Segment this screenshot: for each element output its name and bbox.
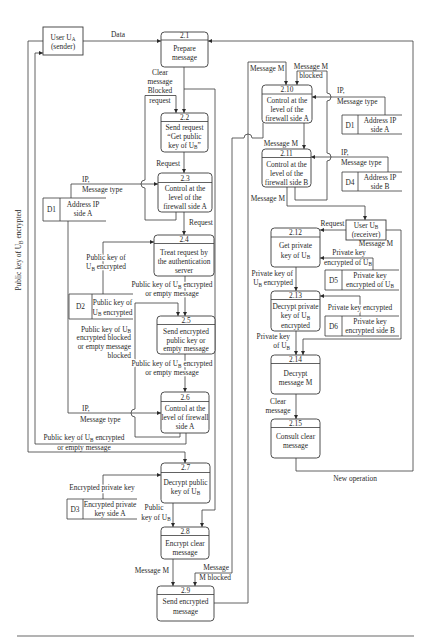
- process-2-11: 2.11 Control at the level of the firewal…: [262, 149, 311, 188]
- data-store-d2: D2 Public key of UB encrypted: [69, 294, 133, 319]
- store-id: D3: [70, 505, 79, 514]
- flow-label-private-key-encrypted: Private key encrypted: [328, 303, 393, 312]
- store-label-line: Address IP: [364, 116, 397, 125]
- process-label-line: key of UB: [281, 251, 311, 261]
- process-label-line: message: [172, 53, 198, 62]
- process-2-15: 2.15 Consult clear message: [271, 419, 320, 459]
- flow-label-clear-message: Clear: [270, 397, 287, 406]
- flow-label-blocked-request: request: [149, 96, 171, 105]
- store-label-line: encrypted of UB: [346, 280, 394, 290]
- flow-label-public-key: Public key of: [86, 253, 126, 262]
- flow-label-clear-message: Clear: [152, 68, 169, 77]
- process-label-line: message: [172, 548, 198, 557]
- store-label-line: Private key: [353, 271, 387, 280]
- process-label-line: Consult clear: [276, 432, 316, 441]
- flow-label-message-m-blocked: blocked: [299, 71, 323, 80]
- process-label-line: level of the: [168, 193, 202, 202]
- process-number: 2.1: [180, 31, 190, 40]
- process-2-3: 2.3 Control at the level of the firewall…: [158, 173, 212, 212]
- process-label-line: Encrypt clear: [165, 539, 205, 548]
- flow-label-ip: IP,: [82, 404, 90, 413]
- process-number: 2.6: [180, 393, 190, 402]
- entity-role: (receiver): [352, 230, 381, 239]
- data-store-d4: D4 Address IP side B: [342, 172, 402, 191]
- store-label-line: side A: [371, 125, 390, 134]
- process-label-line: Decrypt private: [272, 302, 319, 311]
- flow-label-ip: IP,: [341, 148, 349, 157]
- flow-label-message-m-blocked: Message M: [294, 62, 329, 71]
- process-number: 2.3: [180, 174, 190, 183]
- flow-label-message-type: Message type: [80, 415, 121, 424]
- flow-label-private-key: Private key: [332, 248, 366, 257]
- process-number: 2.7: [181, 463, 191, 472]
- store-label-line: Address IP: [67, 200, 100, 209]
- process-label-line: firewall side A: [163, 202, 207, 211]
- process-2-5: 2.5 Send encrypted public key or empty m…: [157, 316, 215, 355]
- process-2-4: 2.4 Treat request by the authentication …: [154, 235, 214, 277]
- process-2-6: 2.6 Control at the level of firewall sid…: [161, 392, 209, 433]
- flow-label-private-key: Private key of: [252, 269, 294, 278]
- process-label-line: firewall side B: [265, 178, 309, 187]
- flow-label-public-key-blocked: or empty message: [78, 342, 132, 351]
- process-label-line: Decrypt: [284, 369, 309, 378]
- store-label-line: Public key of: [93, 298, 133, 307]
- process-number: 2.4: [179, 235, 189, 244]
- process-number: 2.2: [180, 113, 190, 122]
- process-2-10: 2.10 Control at the level of the firewal…: [262, 85, 312, 123]
- store-id: D1: [47, 205, 56, 214]
- process-number: 2.5: [181, 316, 191, 325]
- data-store-d1-right: D1 Address IP side A: [342, 115, 402, 134]
- entity-role: (sender): [51, 42, 76, 51]
- process-label-line: Control at the: [266, 160, 307, 169]
- flow-label-private-key: encrypted of UB: [324, 258, 372, 268]
- store-id: D6: [329, 322, 338, 331]
- process-2-12: 2.12 Get private key of UB: [271, 228, 320, 267]
- flow-label-clear-message: message: [147, 77, 173, 86]
- process-number: 2.8: [180, 527, 190, 536]
- process-label-line: message: [283, 441, 309, 450]
- data-store-d1-left: D1 Address IP side A: [43, 198, 106, 221]
- store-label-line: side A: [74, 209, 93, 218]
- process-label-line: level of the: [270, 169, 304, 178]
- figure-page: User UA (sender) User UB (receiver) 2.1 …: [0, 0, 431, 640]
- process-label-line: empty message: [163, 344, 209, 353]
- process-label-line: Get private: [279, 241, 313, 250]
- data-store-d3: D3 Encrypted private key side A: [67, 499, 137, 519]
- process-2-13: 2.13 Decrypt private key of UB encrypted: [271, 291, 320, 332]
- process-2-14: 2.14 Decrypt message M: [271, 355, 320, 395]
- process-label-line: key of UB: [281, 311, 311, 321]
- data-store-d6: D6 Private key encrypted side B: [325, 316, 399, 336]
- flow-label-ip: IP,: [337, 86, 345, 95]
- process-2-9: 2.9 Send encrypted message: [157, 586, 214, 622]
- process-label-line: side A: [176, 422, 195, 431]
- process-label-line: Control at the: [165, 404, 206, 413]
- flow-label-blocked-request: Blocked: [148, 86, 173, 95]
- flow-label-request: Request: [189, 218, 214, 227]
- flow-label-message-m: Message M: [264, 139, 299, 148]
- flow-2-11-to-user-b: [287, 187, 365, 220]
- process-number: 2.10: [281, 85, 294, 94]
- process-label-line: Control at the: [267, 96, 308, 105]
- external-entity-user-a: User UA (sender): [43, 27, 83, 55]
- store-label-line: Private key: [353, 317, 387, 326]
- store-id: D5: [329, 276, 338, 285]
- store-id: D4: [345, 178, 354, 187]
- process-2-8: 2.8 Encrypt clear message: [161, 527, 209, 560]
- flow-label-clear-message: message: [265, 406, 291, 415]
- process-label-line: Decrypt public: [163, 478, 208, 487]
- flow-label-data: Data: [111, 30, 126, 39]
- process-label-line: Send encrypted: [163, 597, 209, 606]
- flow-label-ip: IP,: [82, 175, 90, 184]
- process-label-line: Control at the: [165, 184, 206, 193]
- flow-label-public-key: Public key of UB encrypted: [43, 433, 124, 443]
- flow-label-private-key: of UB: [273, 341, 290, 351]
- process-label-line: key of UB: [171, 487, 201, 497]
- flow-label-empty-message: or empty message: [57, 443, 111, 452]
- process-label-line: firewall side A: [265, 114, 309, 123]
- process-number: 2.14: [289, 355, 302, 364]
- store-label-line: side B: [371, 182, 390, 191]
- flow-label-message-m-blocked: M blocked: [199, 573, 231, 582]
- flow-label-private-key: Private key: [257, 332, 291, 341]
- process-2-7: 2.7 Decrypt public key of UB: [161, 463, 210, 503]
- flow-label-public-key: Public: [145, 503, 165, 512]
